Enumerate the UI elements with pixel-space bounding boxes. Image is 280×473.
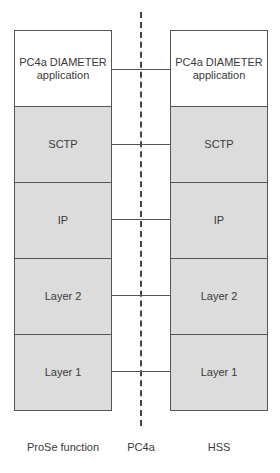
prose-function-stack: PC4a DIAMETER application SCTP IP Layer … bbox=[14, 30, 112, 411]
pc4a-interface-label: PC4a bbox=[116, 441, 166, 453]
connector-application bbox=[112, 69, 170, 70]
layer-ip: IP bbox=[171, 182, 267, 258]
layer-label: IP bbox=[58, 214, 68, 227]
layer-sctp: SCTP bbox=[15, 106, 111, 182]
layer-label: Layer 2 bbox=[45, 290, 82, 303]
layer-diameter-application: PC4a DIAMETER application bbox=[15, 31, 111, 106]
layer-1: Layer 1 bbox=[171, 334, 267, 410]
layer-1: Layer 1 bbox=[15, 334, 111, 410]
connector-layer-1 bbox=[112, 371, 170, 372]
hss-stack: PC4a DIAMETER application SCTP IP Layer … bbox=[170, 30, 268, 411]
layer-label: Layer 1 bbox=[45, 366, 82, 379]
connector-layer-2 bbox=[112, 295, 170, 296]
connector-sctp bbox=[112, 144, 170, 145]
layer-label: Layer 2 bbox=[201, 290, 238, 303]
layer-diameter-application: PC4a DIAMETER application bbox=[171, 31, 267, 106]
layer-label: SCTP bbox=[48, 138, 77, 151]
layer-sctp: SCTP bbox=[171, 106, 267, 182]
layer-2: Layer 2 bbox=[15, 258, 111, 334]
connector-ip bbox=[112, 219, 170, 220]
layer-label: PC4a DIAMETER application bbox=[175, 56, 262, 82]
layer-label: SCTP bbox=[204, 138, 233, 151]
layer-ip: IP bbox=[15, 182, 111, 258]
layer-label: Layer 1 bbox=[201, 366, 238, 379]
hss-label: HSS bbox=[170, 441, 268, 453]
layer-label: PC4a DIAMETER application bbox=[19, 56, 106, 82]
layer-label: IP bbox=[214, 214, 224, 227]
layer-2: Layer 2 bbox=[171, 258, 267, 334]
prose-function-label: ProSe function bbox=[14, 441, 112, 453]
